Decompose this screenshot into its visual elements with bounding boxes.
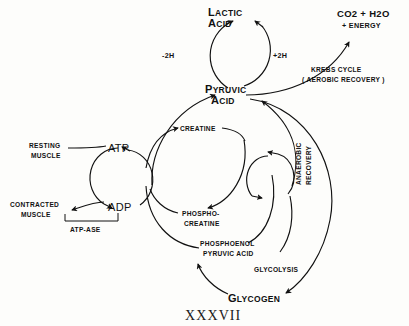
- atp-ase-bracket: [65, 213, 118, 221]
- node-phosphocreatine-line1: PHOSPHO-: [182, 210, 220, 217]
- arc-phosphocreatine-lower-left: [150, 189, 178, 213]
- arc-lactic-to-pyruvic-right: [244, 26, 270, 86]
- node-co2-water-line1: CO2 + H2O: [337, 8, 390, 19]
- node-phosphoenol-line1: PHOSPHOENOL: [200, 240, 255, 247]
- node-pyruvic-acid-line2: ACID: [211, 94, 235, 106]
- arc-adp-to-atp-right: [128, 150, 153, 205]
- line-resting-muscle-to-atp: [68, 146, 106, 148]
- node-creatine: CREATINE: [180, 125, 216, 132]
- figure-caption: XXXVII: [185, 308, 241, 323]
- node-lactic-acid-line2: ACID: [208, 17, 232, 29]
- arc-creatine-top-right: [222, 128, 245, 141]
- arrowhead-into-lactic-right: [255, 21, 263, 27]
- node-resting-muscle-line2: MUSCLE: [31, 152, 61, 159]
- arc-small-circle-right: [278, 154, 294, 194]
- edge-label-glycolysis: GLYCOLYSIS: [254, 266, 299, 273]
- node-adp: ADP: [108, 201, 132, 213]
- metabolism-diagram: LACTIC ACID -2H +2H PYRUVIC ACID CO2 + H…: [0, 0, 409, 326]
- arc-anaerobic-to-pyruvic: [262, 101, 296, 186]
- bracket-path: [65, 213, 118, 221]
- arc-anaerobic-lower: [280, 196, 292, 252]
- node-co2-water-line2: + ENERGY: [342, 21, 381, 30]
- arc-atp-to-adp-left: [90, 148, 118, 204]
- arrowhead-small-circle-bottom: [252, 196, 262, 198]
- lactic-pyruvic-cycle: [210, 21, 270, 88]
- anaerobic-recovery-branch: [262, 101, 296, 252]
- arc-pyruvic-to-lactic-left: [210, 23, 229, 88]
- arrowhead-small-circle-top: [268, 152, 278, 154]
- node-atp: ATP: [108, 142, 129, 154]
- arrow-glycogen-to-phosphoenol: [198, 264, 228, 294]
- edge-label-plus-2h: +2H: [273, 51, 287, 60]
- arrow-phosphoenol-side-to-pyruvic: [152, 95, 215, 185]
- edge-label-anaerobic-recovery-line1: ANAEROBIC: [295, 142, 302, 185]
- arrow-to-phosphocreatine: [208, 140, 245, 208]
- arc-phosphoenol-right-up: [248, 175, 274, 243]
- node-phosphoenol-line2: PYRUVIC ACID: [203, 250, 254, 257]
- arc-small-circle-left: [247, 156, 268, 196]
- arc-to-phosphoenol: [146, 186, 199, 248]
- figure-page: LACTIC ACID -2H +2H PYRUVIC ACID CO2 + H…: [0, 0, 409, 326]
- edge-label-krebs-cycle: KREBS CYCLE: [311, 66, 362, 73]
- small-inner-cycle: [247, 152, 294, 198]
- edge-label-aerobic-recovery: ( AEROBIC RECOVERY ): [302, 76, 385, 84]
- edge-label-minus-2h: -2H: [162, 51, 174, 60]
- node-contracted-muscle-line2: MUSCLE: [21, 211, 51, 218]
- node-phosphocreatine-line2: CREATINE: [184, 220, 220, 227]
- node-glycogen: GLYCOGEN: [228, 292, 280, 304]
- edge-label-anaerobic-recovery-line2: RECOVERY: [305, 146, 312, 185]
- arrow-to-contracted-muscle: [72, 202, 104, 210]
- arrow-to-creatine: [146, 128, 178, 168]
- node-contracted-muscle-line1: CONTRACTED: [10, 201, 59, 208]
- arrow-pyruvic-to-glycogen-outer: [250, 99, 332, 293]
- node-resting-muscle-line1: RESTING: [29, 142, 60, 149]
- atp-adp-cycle: [90, 147, 153, 208]
- edge-label-atp-ase: ATP-ASE: [70, 226, 101, 233]
